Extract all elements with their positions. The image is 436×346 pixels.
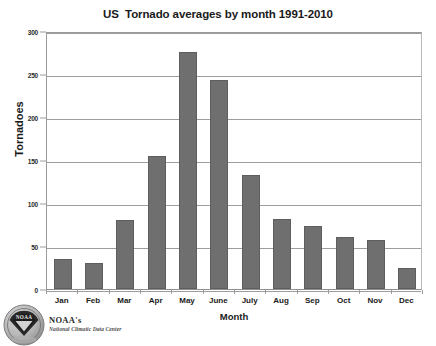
noaa-agency-label: NOAA's xyxy=(49,315,169,325)
x-tick-label-may: May xyxy=(179,296,195,305)
chart-title: US Tornado averages by month 1991-2010 xyxy=(0,8,436,20)
bar-oct[interactable] xyxy=(336,237,354,289)
x-tick-mark-origin xyxy=(46,290,47,294)
x-tick-mark-mar xyxy=(140,290,141,294)
x-tick-mark-aug xyxy=(297,290,298,294)
x-tick-mark-apr xyxy=(171,290,172,294)
x-tick-label-june: June xyxy=(209,296,228,305)
x-tick-mark-sep xyxy=(328,290,329,294)
bar-aug[interactable] xyxy=(273,219,291,289)
bar-jan[interactable] xyxy=(54,259,72,289)
noaa-seal-logo: NOAA xyxy=(3,304,45,346)
x-tick-mark-july xyxy=(265,290,266,294)
y-tick-label-50: 50 xyxy=(31,244,38,251)
x-tick-mark-jan xyxy=(77,290,78,294)
x-tick-label-nov: Nov xyxy=(367,296,382,305)
x-tick-mark-june xyxy=(234,290,235,294)
bar-june[interactable] xyxy=(210,80,228,289)
y-axis-ticks: 050100150200250300 xyxy=(0,32,46,290)
y-tick-label-100: 100 xyxy=(28,201,38,208)
x-tick-mark-may xyxy=(203,290,204,294)
x-tick-label-aug: Aug xyxy=(273,296,289,305)
plot-area xyxy=(46,32,422,290)
y-tick-label-0: 0 xyxy=(35,287,38,294)
y-tick-label-300: 300 xyxy=(28,29,38,36)
svg-text:NOAA: NOAA xyxy=(16,314,32,320)
bar-dec[interactable] xyxy=(398,268,416,289)
x-tick-label-sep: Sep xyxy=(305,296,320,305)
tornado-averages-chart-figure: US Tornado averages by month 1991-2010 T… xyxy=(0,0,436,346)
bar-mar[interactable] xyxy=(116,220,134,289)
noaa-footer-text: NOAA's National Climatic Data Center xyxy=(49,315,169,332)
noaa-footer: NOAA NOAA's National Climatic Data Cente… xyxy=(3,302,173,346)
bar-apr[interactable] xyxy=(148,156,166,289)
x-tick-mark-nov xyxy=(391,290,392,294)
x-tick-label-july: July xyxy=(242,296,258,305)
bars-layer xyxy=(47,33,421,289)
y-tick-label-250: 250 xyxy=(28,72,38,79)
x-tick-label-dec: Dec xyxy=(399,296,414,305)
y-tick-label-150: 150 xyxy=(28,158,38,165)
x-tick-mark-dec xyxy=(422,290,423,294)
bar-may[interactable] xyxy=(179,52,197,289)
x-tick-mark-feb xyxy=(109,290,110,294)
bar-sep[interactable] xyxy=(304,226,322,289)
bar-nov[interactable] xyxy=(367,240,385,289)
bar-feb[interactable] xyxy=(85,263,103,289)
y-tick-label-200: 200 xyxy=(28,115,38,122)
x-tick-mark-oct xyxy=(359,290,360,294)
noaa-center-label: National Climatic Data Center xyxy=(49,326,169,332)
x-tick-label-oct: Oct xyxy=(337,296,350,305)
bar-july[interactable] xyxy=(242,175,260,289)
